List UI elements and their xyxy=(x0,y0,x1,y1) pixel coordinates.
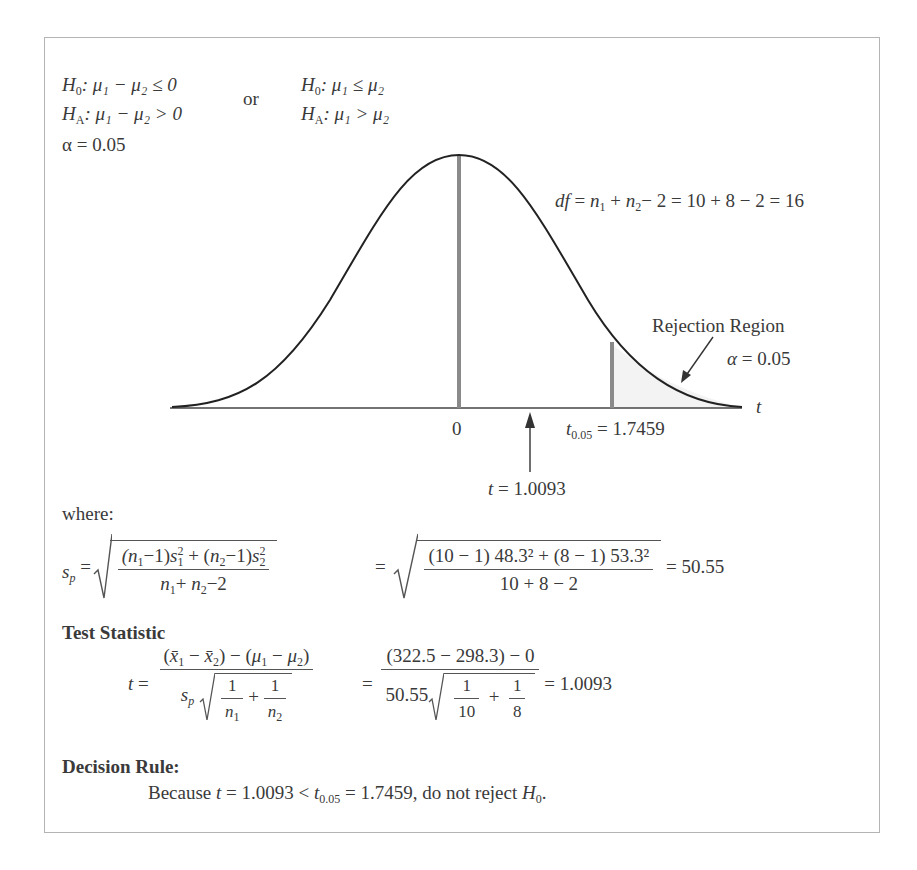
pooled-sub-denominator: 10 + 8 − 2 xyxy=(424,570,653,595)
df-label: df = n1 + n2− 2 = 10 + 8 − 2 = 16 xyxy=(555,190,804,212)
rejection-arrow-head xyxy=(681,370,691,383)
pooled-sd-substitution: = (10 − 1) 48.3² + (8 − 1) 53.3² 10 + 8 … xyxy=(375,532,724,602)
rejection-region-shading xyxy=(612,344,740,408)
sqrt-sign-icon xyxy=(92,532,112,602)
pooled-sd-formula: sp = (n1−1)s12 + (n2−1)s22 n1+ n2−2 xyxy=(62,532,277,602)
critical-value-label: t0.05 = 1.7459 xyxy=(566,418,665,440)
pooled-denominator: n1+ n2−2 xyxy=(118,570,270,595)
sqrt-sign-icon-4 xyxy=(428,672,444,722)
decision-rule-heading: Decision Rule: xyxy=(62,756,180,778)
sqrt-sign-icon-2 xyxy=(390,532,418,602)
pooled-numerator: (n1−1)s12 + (n2−1)s22 xyxy=(118,545,270,570)
rejection-arrow-shaft xyxy=(685,337,713,377)
test-stat-arrow-head xyxy=(525,412,535,428)
t-denominator: sp 1n1 + 1n2 xyxy=(160,670,314,722)
test-statistic-substitution: = (322.5 − 298.3) − 0 50.55 110 + 18 = 1… xyxy=(362,645,612,722)
zero-label: 0 xyxy=(452,418,462,440)
pooled-sd-result: = 50.55 xyxy=(666,556,724,577)
test-statistic-label: t = 1.0093 xyxy=(488,478,566,500)
x-axis-label: t xyxy=(756,396,761,418)
where-label: where: xyxy=(62,503,114,525)
test-statistic-formula: t = (x̄1 − x̄2) − (μ1 − μ2) sp 1n1 + 1n2 xyxy=(128,645,313,722)
rejection-region-label: Rejection Region xyxy=(652,315,784,337)
test-statistic-heading: Test Statistic xyxy=(62,622,165,644)
sqrt-sign-icon-3 xyxy=(199,672,215,722)
t-numerator: (x̄1 − x̄2) − (μ1 − μ2) xyxy=(160,645,314,670)
pooled-sub-numerator: (10 − 1) 48.3² + (8 − 1) 53.3² xyxy=(424,545,653,570)
rejection-alpha-label: α = 0.05 xyxy=(727,348,790,370)
t-sub-numerator: (322.5 − 298.3) − 0 xyxy=(381,645,539,670)
t-sub-denominator: 50.55 110 + 18 xyxy=(381,670,539,722)
decision-rule-text: Because t = 1.0093 < t0.05 = 1.7459, do … xyxy=(148,782,546,804)
test-statistic-result: = 1.0093 xyxy=(544,673,612,694)
